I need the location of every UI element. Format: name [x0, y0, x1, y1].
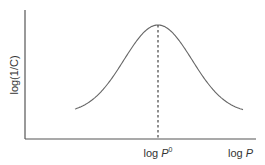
peak-label-var: P — [161, 147, 168, 159]
bell-curve — [75, 25, 243, 110]
chart-canvas — [0, 0, 265, 165]
peak-label-superscript: 0 — [169, 146, 173, 153]
x-label-var: P — [246, 147, 253, 159]
x-label-prefix: log — [228, 147, 246, 159]
peak-tick-label: log P0 — [144, 147, 173, 159]
y-axis-label: log(1/C) — [8, 55, 20, 94]
peak-label-prefix: log — [144, 147, 162, 159]
x-axis-label: log P — [228, 147, 253, 159]
